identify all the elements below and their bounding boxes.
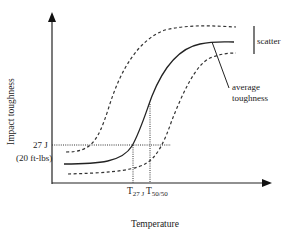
transition-curve-diagram bbox=[0, 0, 292, 234]
y-axis-arrow-icon bbox=[48, 12, 56, 22]
upper-scatter-curve bbox=[66, 26, 236, 152]
average-leader-line bbox=[212, 42, 229, 88]
average-label-line2: toughness bbox=[232, 94, 268, 103]
y-axis-label: Impact toughness bbox=[6, 78, 16, 145]
t5050-label: T50/50 bbox=[146, 187, 168, 197]
x-axis-arrow-icon bbox=[262, 179, 272, 187]
average-label-line1: average bbox=[232, 83, 260, 92]
t5050-sub: 50/50 bbox=[152, 190, 168, 198]
threshold-alt-label: (20 ft-lbs) bbox=[16, 154, 52, 163]
t27j-main: T bbox=[127, 186, 133, 196]
t27j-label: T27 J bbox=[127, 187, 144, 197]
scatter-label: scatter bbox=[257, 37, 280, 46]
t5050-main: T bbox=[146, 186, 152, 196]
t27j-sub: 27 J bbox=[133, 190, 144, 198]
threshold-value-label: 27 J bbox=[33, 141, 48, 150]
lower-scatter-curve bbox=[68, 53, 236, 174]
x-axis-label: Temperature bbox=[131, 220, 179, 230]
